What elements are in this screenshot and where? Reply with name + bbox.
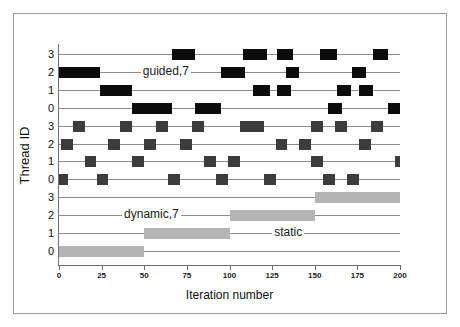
chunk-block bbox=[277, 85, 291, 96]
chunk-block bbox=[373, 49, 388, 60]
chunk-block bbox=[277, 49, 292, 60]
chunk-block bbox=[323, 174, 335, 185]
plot-area: guided,7dynamic,7static bbox=[59, 46, 400, 259]
y-tick-label: 2 bbox=[48, 209, 54, 221]
chunk-block bbox=[180, 139, 192, 150]
chunk-block bbox=[108, 139, 120, 150]
chunk-block bbox=[240, 121, 252, 132]
chart-annotation: dynamic,7 bbox=[122, 207, 181, 221]
chunk-block bbox=[395, 156, 400, 167]
chunk-block bbox=[253, 85, 270, 96]
chunk-block bbox=[311, 121, 323, 132]
chunk-block bbox=[97, 174, 109, 185]
chart-annotation: guided,7 bbox=[141, 64, 191, 78]
x-tick-label: 150 bbox=[308, 271, 321, 280]
x-tick-mark bbox=[59, 265, 60, 270]
y-tick-label: 3 bbox=[48, 120, 54, 132]
lane-baseline bbox=[59, 233, 400, 234]
x-tick-mark bbox=[187, 265, 188, 270]
chunk-block bbox=[216, 174, 228, 185]
x-tick-mark bbox=[102, 265, 103, 270]
x-tick-label: 125 bbox=[265, 271, 278, 280]
y-tick-label: 0 bbox=[48, 173, 54, 185]
chunk-block bbox=[320, 49, 337, 60]
y-tick-label: 2 bbox=[48, 138, 54, 150]
chunk-block bbox=[204, 156, 216, 167]
chunk-block bbox=[195, 103, 221, 114]
y-tick-label: 3 bbox=[48, 191, 54, 203]
chunk-block bbox=[59, 174, 68, 185]
x-tick-label: 25 bbox=[97, 271, 106, 280]
chart-annotation: static bbox=[272, 225, 304, 239]
x-tick-label: 100 bbox=[223, 271, 236, 280]
chunk-block bbox=[230, 210, 315, 221]
lane-baseline bbox=[59, 54, 400, 55]
chunk-block bbox=[264, 174, 276, 185]
x-tick-mark bbox=[230, 265, 231, 270]
x-axis-title: Iteration number bbox=[59, 288, 400, 302]
chunk-block bbox=[59, 246, 144, 257]
chunk-block bbox=[335, 121, 347, 132]
chunk-block bbox=[144, 139, 156, 150]
chunk-block bbox=[132, 156, 144, 167]
x-tick-label: 200 bbox=[393, 271, 406, 280]
chunk-block bbox=[371, 121, 383, 132]
chunk-block bbox=[100, 85, 132, 96]
chunk-block bbox=[286, 67, 300, 78]
x-tick-mark bbox=[400, 265, 401, 270]
chunk-block bbox=[243, 49, 267, 60]
lane-baseline bbox=[59, 126, 400, 127]
x-tick-mark bbox=[272, 265, 273, 270]
x-tick-mark bbox=[357, 265, 358, 270]
chunk-block bbox=[228, 156, 240, 167]
chunk-block bbox=[347, 174, 359, 185]
y-tick-label: 0 bbox=[48, 102, 54, 114]
x-tick-mark bbox=[144, 265, 145, 270]
chunk-block bbox=[156, 121, 168, 132]
y-tick-label: 1 bbox=[48, 227, 54, 239]
y-tick-label: 0 bbox=[48, 245, 54, 257]
chunk-block bbox=[337, 85, 351, 96]
x-tick-label: 0 bbox=[57, 271, 61, 280]
chunk-block bbox=[328, 103, 342, 114]
lane-baseline bbox=[59, 108, 400, 109]
chunk-block bbox=[311, 156, 323, 167]
chunk-block bbox=[61, 139, 73, 150]
chunk-block bbox=[352, 67, 366, 78]
chunk-block bbox=[172, 49, 196, 60]
y-tick-label: 3 bbox=[48, 48, 54, 60]
chunk-block bbox=[221, 67, 245, 78]
chunk-block bbox=[120, 121, 132, 132]
chunk-block bbox=[276, 139, 288, 150]
chunk-block bbox=[359, 139, 371, 150]
chunk-block bbox=[144, 228, 229, 239]
chunk-block bbox=[73, 121, 85, 132]
chunk-block bbox=[359, 85, 373, 96]
chunk-block bbox=[168, 174, 180, 185]
chunk-block bbox=[388, 103, 400, 114]
y-tick-label: 1 bbox=[48, 155, 54, 167]
chunk-block bbox=[59, 67, 100, 78]
chunk-block bbox=[132, 103, 171, 114]
figure-root: 321032103210 Thread ID guided,7dynamic,7… bbox=[0, 0, 460, 327]
chunk-block bbox=[85, 156, 97, 167]
y-axis-title: Thread ID bbox=[17, 101, 32, 211]
x-tick-mark bbox=[315, 265, 316, 270]
x-tick-label: 50 bbox=[140, 271, 149, 280]
y-tick-label: 1 bbox=[48, 84, 54, 96]
chunk-block bbox=[252, 121, 264, 132]
chunk-block bbox=[315, 192, 400, 203]
chunk-block bbox=[299, 139, 311, 150]
chunk-block bbox=[192, 121, 204, 132]
y-tick-label: 2 bbox=[48, 66, 54, 78]
x-tick-label: 75 bbox=[182, 271, 191, 280]
x-tick-label: 175 bbox=[351, 271, 364, 280]
